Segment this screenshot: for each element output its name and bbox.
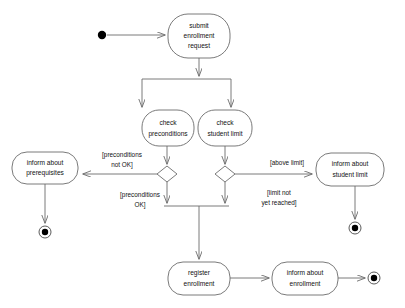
- action-inform-about-student-limit[interactable]: inform about student limit: [316, 153, 384, 186]
- action-label-line: check: [216, 119, 234, 126]
- initial-node[interactable]: [98, 31, 106, 39]
- action-label-line: student limit: [207, 130, 242, 137]
- guard-preconditions-not-ok: [preconditions not OK]: [102, 151, 142, 169]
- action-label-line: student limit: [332, 171, 367, 178]
- guard-label-line: [preconditions: [102, 151, 142, 159]
- action-label-line: register: [188, 269, 211, 277]
- action-label-line: enrollment: [184, 280, 215, 287]
- action-label-line: check: [159, 119, 177, 126]
- guard-label-line: [preconditions: [120, 191, 160, 199]
- guard-above-limit: [above limit]: [270, 159, 304, 167]
- action-check-student-limit[interactable]: check student limit: [198, 110, 252, 146]
- action-inform-about-prerequisites[interactable]: inform about prerequisites: [12, 152, 78, 184]
- action-label-line: request: [188, 42, 210, 50]
- guard-label-line: not OK]: [111, 161, 133, 169]
- action-check-preconditions[interactable]: check preconditions: [142, 110, 194, 146]
- action-register-enrollment[interactable]: register enrollment: [168, 262, 230, 295]
- guard-limit-not-yet-reached: [limit not yet reached]: [261, 189, 296, 207]
- action-inform-about-enrollment[interactable]: inform about enrollment: [272, 262, 338, 295]
- activity-diagram-canvas: submit enrollment request check precondi…: [0, 0, 405, 308]
- activity-diagram: submit enrollment request check precondi…: [0, 0, 405, 308]
- decision-preconditions[interactable]: [157, 166, 177, 182]
- final-node-prerequisites[interactable]: [39, 226, 51, 238]
- action-label-line: preconditions: [148, 130, 188, 138]
- guard-label-line: yet reached]: [261, 199, 296, 207]
- decision-student-limit[interactable]: [215, 166, 235, 182]
- action-label-line: prerequisites: [26, 169, 64, 177]
- action-label-line: inform about: [287, 269, 324, 276]
- guard-label-line: [limit not: [267, 189, 291, 197]
- action-label-line: submit: [189, 22, 209, 29]
- guard-preconditions-ok: [preconditions OK]: [120, 191, 160, 209]
- action-label-line: enrollment: [184, 32, 215, 39]
- action-submit-enrollment-request[interactable]: submit enrollment request: [168, 14, 230, 58]
- action-label-line: inform about: [332, 160, 369, 167]
- action-label-line: inform about: [27, 159, 64, 166]
- final-node-student-limit[interactable]: [349, 222, 361, 234]
- guard-label-line: OK]: [134, 201, 145, 209]
- final-node-enrollment[interactable]: [368, 272, 380, 284]
- action-label-line: enrollment: [290, 280, 321, 287]
- guard-label-line: [above limit]: [270, 159, 304, 167]
